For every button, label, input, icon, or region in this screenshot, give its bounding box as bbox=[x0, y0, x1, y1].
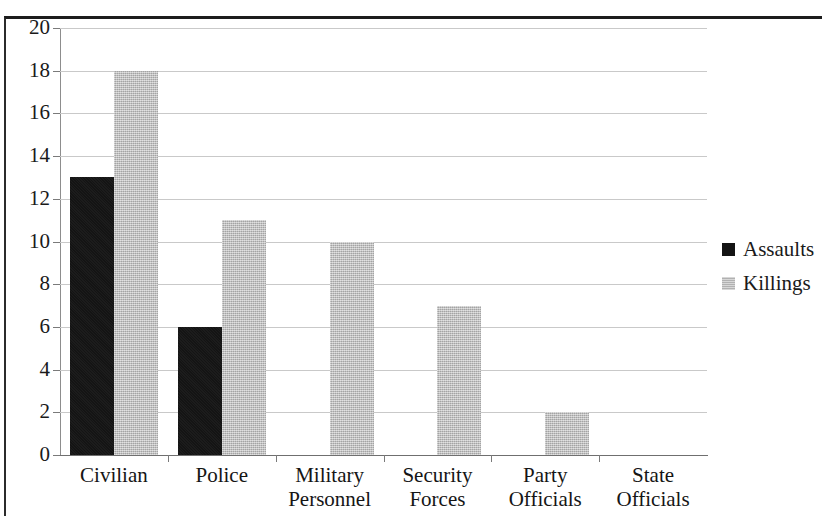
y-axis-tick-label: 4 bbox=[2, 359, 50, 380]
y-axis-tick-label: 14 bbox=[2, 145, 50, 166]
y-axis-tick-mark bbox=[53, 199, 60, 200]
y-axis-tick-label: 8 bbox=[2, 273, 50, 294]
x-axis-tick-label-line: Forces bbox=[384, 487, 492, 511]
bar-group bbox=[491, 28, 599, 455]
y-axis-tick-label: 2 bbox=[2, 401, 50, 422]
legend-item-killings[interactable]: Killings bbox=[722, 266, 822, 300]
bar-killings-security-forces bbox=[437, 306, 481, 455]
chart-legend: AssaultsKillings bbox=[722, 232, 822, 300]
y-axis-tick-label: 10 bbox=[2, 231, 50, 252]
x-axis-tick-mark bbox=[384, 455, 385, 462]
bars-layer bbox=[60, 28, 707, 455]
legend-label: Assaults bbox=[743, 239, 814, 260]
bar-group bbox=[599, 28, 707, 455]
y-axis-tick-mark bbox=[53, 455, 60, 456]
bar-killings-party-officials bbox=[545, 412, 589, 455]
legend-item-assaults[interactable]: Assaults bbox=[722, 232, 822, 266]
x-axis-tick-label-line: State bbox=[599, 463, 707, 487]
bar-group bbox=[384, 28, 492, 455]
y-axis-tick-mark bbox=[53, 412, 60, 413]
y-axis-tick-mark bbox=[53, 156, 60, 157]
y-axis-tick-mark bbox=[53, 370, 60, 371]
y-axis-tick-label: 20 bbox=[2, 17, 50, 38]
y-axis-tick-mark bbox=[53, 71, 60, 72]
x-axis-tick-label-line: Security bbox=[384, 463, 492, 487]
y-axis-tick-label: 0 bbox=[2, 444, 50, 465]
x-axis-tick-mark bbox=[599, 455, 600, 462]
x-axis-tick-label-line: Party bbox=[491, 463, 599, 487]
y-axis-tick-label: 16 bbox=[2, 102, 50, 123]
x-axis-tick-label-party-officials: PartyOfficials bbox=[491, 463, 599, 511]
legend-swatch-assaults bbox=[722, 243, 735, 256]
y-axis-tick-mark bbox=[53, 327, 60, 328]
y-axis-tick-label: 6 bbox=[2, 316, 50, 337]
bar-group bbox=[168, 28, 276, 455]
bar-assaults-civilian bbox=[70, 177, 114, 455]
x-axis-tick-label-line: Personnel bbox=[276, 487, 384, 511]
x-axis-tick-label-line: Officials bbox=[491, 487, 599, 511]
y-axis-tick-mark bbox=[53, 113, 60, 114]
y-axis-tick-mark bbox=[53, 284, 60, 285]
x-axis-tick-label-line: Officials bbox=[599, 487, 707, 511]
y-axis-tick-label: 12 bbox=[2, 188, 50, 209]
bar-killings-military-personnel bbox=[330, 242, 374, 456]
x-axis-tick-label-civilian: Civilian bbox=[60, 463, 168, 487]
x-axis-tick-label-police: Police bbox=[168, 463, 276, 487]
x-axis-tick-mark bbox=[491, 455, 492, 462]
x-axis-tick-label-military-personnel: MilitaryPersonnel bbox=[276, 463, 384, 511]
bar-assaults-police bbox=[178, 327, 222, 455]
y-axis-tick-mark bbox=[53, 28, 60, 29]
y-axis-tick-mark bbox=[53, 242, 60, 243]
legend-label: Killings bbox=[743, 273, 811, 294]
bar-group bbox=[60, 28, 168, 455]
legend-swatch-killings bbox=[722, 277, 735, 290]
bar-killings-police bbox=[222, 220, 266, 455]
x-axis-tick-mark bbox=[168, 455, 169, 462]
bar-killings-civilian bbox=[114, 71, 158, 455]
x-axis-tick-label-state-officials: StateOfficials bbox=[599, 463, 707, 511]
bar-group bbox=[276, 28, 384, 455]
x-axis-tick-label-line: Civilian bbox=[60, 463, 168, 487]
x-axis-tick-label-security-forces: SecurityForces bbox=[384, 463, 492, 511]
x-axis-tick-label-line: Police bbox=[168, 463, 276, 487]
x-axis-tick-mark bbox=[276, 455, 277, 462]
x-axis-tick-label-line: Military bbox=[276, 463, 384, 487]
chart-figure: 02468101214161820 CivilianPoliceMilitary… bbox=[0, 0, 827, 526]
y-axis-tick-label: 18 bbox=[2, 60, 50, 81]
